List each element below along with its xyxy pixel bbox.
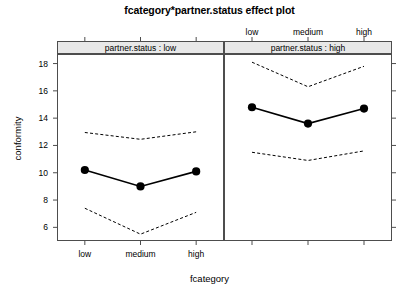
- y-tick-label: 14: [20, 113, 48, 123]
- panel-frame-low: [58, 55, 224, 241]
- y-tick-label: 16: [20, 86, 48, 96]
- y-tick-label: 10: [20, 168, 48, 178]
- data-point-high-low: [248, 103, 256, 111]
- y-tick-label: 18: [20, 59, 48, 69]
- x-tick-label: low: [78, 249, 91, 259]
- x-tick-label: medium: [125, 249, 155, 259]
- data-point-low-medium: [136, 182, 144, 190]
- data-point-high-medium: [304, 120, 312, 128]
- x-tick-label: high: [188, 249, 204, 259]
- data-point-low-high: [192, 167, 200, 175]
- x-tick-label-top: high: [356, 27, 372, 37]
- y-tick-label: 12: [20, 140, 48, 150]
- plot-canvas: [0, 0, 419, 298]
- effect-plot: fcategory*partner.status effect plot con…: [0, 0, 419, 298]
- x-tick-label-top: low: [246, 27, 259, 37]
- x-tick-label-top: medium: [293, 27, 323, 37]
- data-point-high-high: [360, 104, 368, 112]
- y-tick-label: 6: [20, 222, 48, 232]
- data-point-low-low: [81, 166, 89, 174]
- panel-frame-high: [225, 55, 392, 241]
- y-tick-label: 8: [20, 195, 48, 205]
